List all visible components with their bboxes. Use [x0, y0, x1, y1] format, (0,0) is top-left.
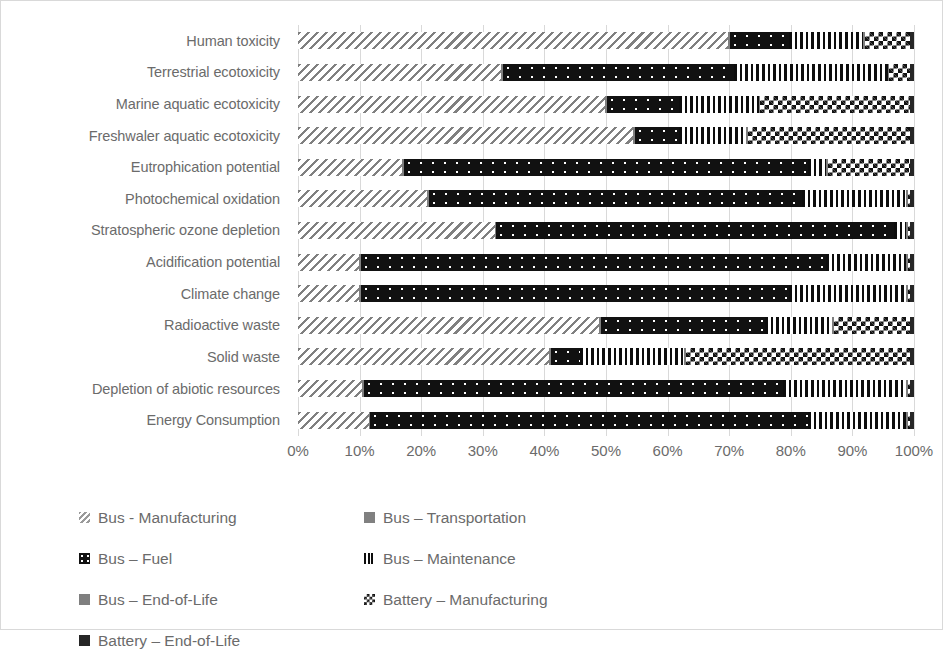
bar-segment[interactable]: [730, 32, 790, 49]
bar-segment[interactable]: [910, 64, 914, 81]
bar-segment[interactable]: [910, 317, 914, 334]
legend-item-label: Bus - Manufacturing: [98, 509, 237, 527]
bar-row: [298, 404, 914, 436]
bar-segment[interactable]: [429, 190, 802, 207]
bar-segment[interactable]: [298, 96, 605, 113]
legend-item[interactable]: Bus – End-of-Life: [79, 579, 364, 620]
bar-segment[interactable]: [686, 348, 911, 365]
bar-segment[interactable]: [865, 32, 910, 49]
bar-segment[interactable]: [679, 127, 747, 144]
bar-segment[interactable]: [601, 317, 765, 334]
bar-segment[interactable]: [910, 222, 914, 239]
bar-segment[interactable]: [808, 412, 906, 429]
bar-segment[interactable]: [551, 348, 580, 365]
bar-segment[interactable]: [910, 348, 914, 365]
legend-item-label: Battery – Manufacturing: [383, 591, 548, 609]
bar-row: [298, 341, 914, 373]
bar-segment[interactable]: [298, 190, 427, 207]
bar-segment[interactable]: [370, 412, 807, 429]
bar-segment[interactable]: [298, 127, 633, 144]
bar-segment[interactable]: [496, 222, 893, 239]
bar-segment[interactable]: [298, 222, 495, 239]
bar-segment[interactable]: [635, 127, 679, 144]
bar-segment[interactable]: [298, 317, 599, 334]
bar-segment[interactable]: [834, 317, 910, 334]
x-axis-tick: 40%: [529, 442, 559, 459]
legend-item[interactable]: Bus - Manufacturing: [79, 497, 364, 538]
stacked-bar[interactable]: [298, 412, 914, 429]
bar-segment[interactable]: [734, 64, 888, 81]
stacked-bar[interactable]: [298, 380, 914, 397]
bar-segment[interactable]: [828, 159, 910, 176]
bar-segment[interactable]: [298, 159, 402, 176]
bar-segment[interactable]: [894, 222, 906, 239]
bar-segment[interactable]: [748, 127, 910, 144]
bar-segment[interactable]: [802, 190, 906, 207]
y-axis-category-labels: Human toxicityTerrestrial ecotoxicityMar…: [1, 25, 289, 436]
y-axis-label: Climate change: [1, 278, 289, 310]
bar-segment[interactable]: [361, 254, 826, 271]
y-axis-label: Solid waste: [1, 341, 289, 373]
bar-segment[interactable]: [910, 127, 914, 144]
bar-segment[interactable]: [361, 285, 789, 302]
stacked-bar[interactable]: [298, 317, 914, 334]
checkerboard-swatch: [364, 594, 375, 605]
y-axis-label: Eutrophication potential: [1, 151, 289, 183]
bar-segment[interactable]: [910, 254, 914, 271]
bar-segment[interactable]: [910, 96, 914, 113]
y-axis-label: Terrestrial ecotoxicity: [1, 57, 289, 89]
bar-segment[interactable]: [789, 285, 906, 302]
stacked-bar[interactable]: [298, 348, 914, 365]
bar-rows: [298, 25, 914, 436]
bar-segment[interactable]: [298, 64, 501, 81]
bar-segment[interactable]: [910, 285, 914, 302]
bar-segment[interactable]: [910, 159, 914, 176]
legend-item[interactable]: Bus – Transportation: [364, 497, 649, 538]
bar-segment[interactable]: [607, 96, 679, 113]
stacked-bar[interactable]: [298, 32, 914, 49]
legend-item[interactable]: Bus – Maintenance: [364, 538, 649, 579]
bar-segment[interactable]: [910, 412, 914, 429]
bar-segment[interactable]: [765, 317, 833, 334]
bar-segment[interactable]: [760, 96, 910, 113]
bar-segment[interactable]: [910, 190, 914, 207]
bar-segment[interactable]: [298, 412, 369, 429]
x-axis-tick-labels: 0%10%20%30%40%50%60%70%80%90%100%: [298, 442, 914, 468]
bar-segment[interactable]: [298, 380, 362, 397]
legend-item[interactable]: Bus – Fuel: [79, 538, 364, 579]
bar-row: [298, 88, 914, 120]
stacked-bar[interactable]: [298, 96, 914, 113]
bar-segment[interactable]: [910, 380, 914, 397]
stacked-bar[interactable]: [298, 127, 914, 144]
x-axis-tick: 50%: [591, 442, 621, 459]
bar-segment[interactable]: [783, 380, 906, 397]
stacked-bar[interactable]: [298, 285, 914, 302]
bar-segment[interactable]: [298, 348, 549, 365]
bar-segment[interactable]: [298, 32, 728, 49]
bar-segment[interactable]: [580, 348, 684, 365]
bar-segment[interactable]: [826, 254, 906, 271]
y-axis-label: Marine aquatic ecotoxicity: [1, 88, 289, 120]
legend-item[interactable]: Battery – Manufacturing: [364, 579, 649, 620]
stacked-bar[interactable]: [298, 190, 914, 207]
bar-segment[interactable]: [679, 96, 759, 113]
bar-row: [298, 183, 914, 215]
bar-segment[interactable]: [910, 32, 914, 49]
stacked-bar[interactable]: [298, 64, 914, 81]
bar-segment[interactable]: [808, 159, 826, 176]
bar-segment[interactable]: [889, 64, 910, 81]
bar-segment[interactable]: [298, 285, 359, 302]
bar-segment[interactable]: [364, 380, 783, 397]
bar-segment[interactable]: [789, 32, 863, 49]
legend-item[interactable]: Battery – End-of-Life: [79, 620, 364, 653]
bar-segment[interactable]: [404, 159, 808, 176]
bar-segment[interactable]: [503, 64, 735, 81]
stacked-bar[interactable]: [298, 159, 914, 176]
stacked-bar[interactable]: [298, 222, 914, 239]
vertical-bars-swatch: [364, 553, 375, 564]
legend-item-label: Bus – Transportation: [383, 509, 526, 527]
bar-row: [298, 57, 914, 89]
stacked-bar[interactable]: [298, 254, 914, 271]
bar-segment[interactable]: [298, 254, 359, 271]
